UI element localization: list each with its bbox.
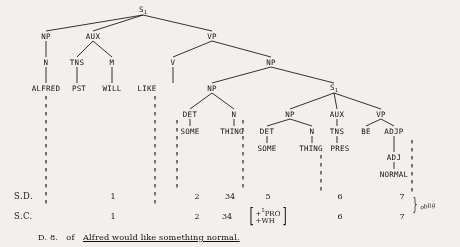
terminal-some: SOME — [258, 144, 277, 153]
edge-NP_emb-to-DET_2 — [267, 119, 290, 126]
syntax-tree-figure: S1NPAUXVPNTNSMVNPNPS1DETNNPAUXVPDETNTNSB… — [0, 0, 460, 247]
cell-sc_2: 2 — [194, 212, 199, 221]
cell-sd_7: 7 — [399, 192, 404, 201]
tree-node-aux: AUX — [86, 32, 100, 41]
feature-superscript: 5 — [261, 207, 264, 213]
node-subscript: 1 — [335, 87, 338, 93]
cell-sd_34: 34 — [225, 192, 235, 201]
tree-node-n: N — [232, 110, 237, 119]
sd-row-label: S.D. — [14, 191, 33, 201]
tree-node-tns: TNS — [330, 127, 344, 136]
correspondence-dashed-lines — [46, 96, 412, 206]
edge-NP_inner-to-N_1 — [212, 93, 234, 109]
tree-node-vp: VP — [207, 32, 217, 41]
edge-VP_emb-to-BE_emb — [366, 119, 381, 126]
tree-node-np: NP — [266, 58, 276, 67]
tree-node-np: NP — [207, 84, 217, 93]
tree-node-s-1: S1 — [330, 83, 338, 94]
edge-VP_emb-to-ADJP_emb — [381, 119, 394, 126]
cell-sd_2: 2 — [194, 192, 199, 201]
cell-sc_34: 34 — [222, 212, 232, 221]
edge-S_top-to-NP_subj — [46, 15, 143, 31]
tree-node-vp: VP — [376, 110, 386, 119]
edge-AUX_main-to-TNS_main — [77, 41, 93, 57]
tree-node-s-1: S1 — [139, 5, 147, 16]
bracket-left-icon: [ — [250, 212, 254, 219]
cell-sc_1: 1 — [110, 212, 115, 221]
cell-sd_5: 5 — [265, 192, 270, 201]
caption-number: D. 8. — [38, 232, 58, 242]
tree-node-be: BE — [361, 127, 371, 136]
oblig-annotation: } oblig — [410, 200, 435, 210]
terminal-thing: THING — [220, 127, 244, 136]
cell-sd_1: 1 — [110, 192, 115, 201]
edge-S_top-to-AUX_main — [93, 15, 143, 31]
edge-NP_obj-to-NP_inner — [212, 67, 271, 83]
tree-node-adj: ADJ — [387, 153, 401, 162]
edge-VP_main-to-NP_obj — [212, 41, 271, 57]
feature-wh: +WH — [256, 218, 281, 226]
edge-NP_inner-to-DET_1 — [190, 93, 212, 109]
caption-sentence: Alfred would like something normal. — [83, 232, 240, 242]
tree-node-np: NP — [285, 110, 295, 119]
terminal-normal: NORMAL — [380, 170, 408, 179]
edge-S_emb-to-VP_emb — [334, 93, 381, 109]
tree-node-np: NP — [41, 32, 51, 41]
tree-node-adjp: ADJP — [384, 127, 403, 136]
tree-node-m: M — [110, 58, 115, 67]
terminal-will: WILL — [103, 84, 122, 93]
tree-node-n: N — [44, 58, 49, 67]
curly-brace-icon: } — [413, 200, 418, 210]
terminal-pres: PRES — [331, 144, 350, 153]
edge-S_emb-to-NP_emb — [290, 93, 334, 109]
terminal-pst: PST — [72, 84, 86, 93]
node-subscript: 1 — [144, 9, 147, 15]
cell-sc_6: 6 — [337, 212, 342, 221]
tree-edges-layer — [0, 0, 460, 247]
edge-S_top-to-VP_main — [143, 15, 212, 31]
tree-node-v: V — [171, 58, 176, 67]
oblig-label: oblig — [420, 200, 436, 210]
figure-caption: D. 8. of Alfred would like something nor… — [38, 232, 240, 242]
terminal-thing: THING — [299, 144, 323, 153]
tree-node-det: DET — [260, 127, 274, 136]
edge-NP_obj-to-S_emb — [271, 67, 334, 83]
edge-S_emb-to-AUX_emb — [334, 93, 337, 109]
tree-node-tns: TNS — [70, 58, 84, 67]
bracket-right-icon: ] — [282, 212, 286, 219]
terminal-some: SOME — [181, 127, 200, 136]
edge-VP_main-to-V_main — [173, 41, 212, 57]
caption-connector: of — [66, 232, 74, 242]
sc-row-label: S.C. — [14, 211, 33, 221]
tree-node-n: N — [310, 127, 315, 136]
tree-node-aux: AUX — [330, 110, 344, 119]
edge-NP_emb-to-N_2 — [290, 119, 312, 126]
tree-node-det: DET — [183, 110, 197, 119]
cell-sd_6: 6 — [337, 192, 342, 201]
terminal-like: LIKE — [138, 84, 157, 93]
feature-matrix: [ +5PRO+WH ] — [248, 206, 288, 225]
feature-pro: +5PRO — [256, 206, 281, 217]
cell-sc_7: 7 — [399, 212, 404, 221]
edge-AUX_main-to-M_main — [93, 41, 112, 57]
terminal-alfred: ALFRED — [32, 84, 60, 93]
